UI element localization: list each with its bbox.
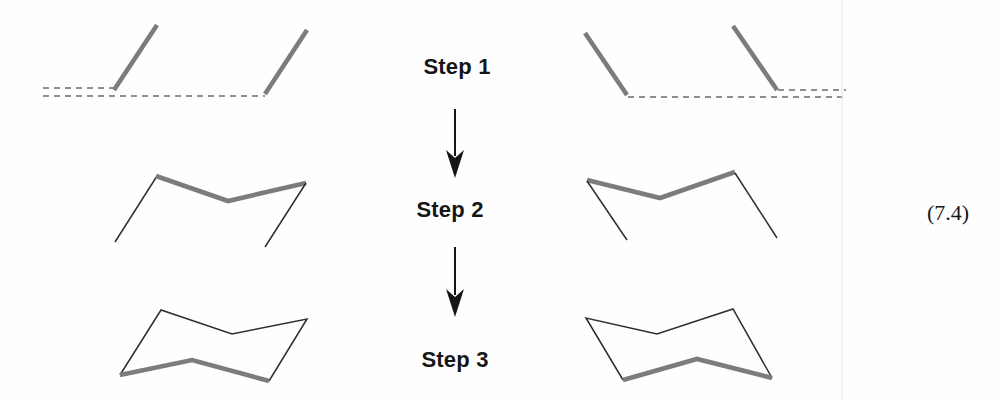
right-step1-parallel-line-1 xyxy=(585,33,627,95)
right-step3-chair-thick-bottom xyxy=(623,359,772,380)
step-3-label: Step 3 xyxy=(421,347,488,373)
step-1-label: Step 1 xyxy=(423,54,490,80)
chair-conformation-steps-figure: Step 1 Step 2 Step 3 (7.4) xyxy=(0,0,1001,401)
left-step2-left-thin-line xyxy=(115,176,157,242)
down-arrow-step2-to-step3 xyxy=(446,247,464,317)
right-step2-thick-vee xyxy=(587,172,735,198)
left-step2-thick-vee xyxy=(156,176,306,201)
left-step3-chair-thick-bottom xyxy=(120,360,269,381)
step-2-label: Step 2 xyxy=(416,197,483,223)
down-arrow-step1-to-step2 xyxy=(446,109,464,178)
left-step1-parallel-line-2 xyxy=(265,30,307,94)
left-step1-parallel-line-1 xyxy=(114,25,157,90)
diagram-canvas xyxy=(0,0,1001,401)
right-step2-right-thin-line xyxy=(735,173,777,238)
equation-number: (7.4) xyxy=(927,200,969,226)
right-step1-parallel-line-2 xyxy=(733,26,777,90)
